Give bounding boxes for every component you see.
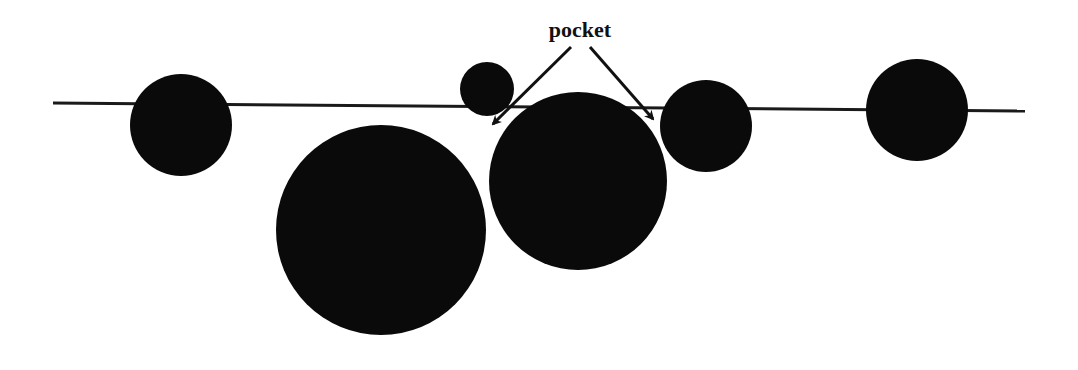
circle-4 [489, 92, 667, 270]
circle-2 [276, 125, 486, 335]
circle-3 [460, 62, 514, 116]
circle-5 [660, 80, 752, 172]
circle-1 [130, 74, 232, 176]
pocket-diagram: pocket [0, 0, 1078, 370]
pocket-label: pocket [549, 17, 612, 42]
circle-6 [866, 59, 968, 161]
circles-group [130, 59, 968, 335]
